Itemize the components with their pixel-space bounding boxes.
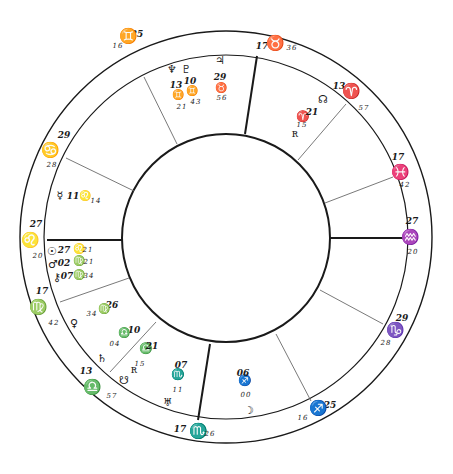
aquarius-icon: ♒ — [401, 228, 420, 246]
planet-pluto: ♇10♊43 — [181, 63, 201, 106]
jupiter-icon: ♃ — [215, 54, 225, 67]
cusp-minutes: 42 — [399, 181, 411, 189]
saturn-icon: ♄ — [97, 352, 107, 365]
planet-chiron-aries: ʀ — [292, 127, 299, 140]
house-cusp-lines — [47, 56, 405, 420]
cusp-minutes: 36 — [287, 44, 298, 52]
cusp-label-h5: 25♐16 — [298, 399, 337, 422]
venus-icon: ♀ — [70, 317, 78, 330]
cusp-minutes: 20 — [32, 252, 44, 260]
cusp-line-h5 — [276, 334, 311, 401]
planet-minutes: 21 — [176, 103, 188, 111]
planet-minutes: 21 — [82, 246, 94, 254]
cusp-label-mc: 17♉36 — [256, 34, 298, 52]
planet-sign-icon: ♊ — [172, 88, 184, 101]
mercury-icon: ☿ — [57, 189, 64, 202]
planet-degree: 07 — [175, 360, 188, 370]
cusp-degree: 13 — [80, 366, 93, 376]
planet-minutes: 43 — [190, 98, 202, 106]
planet-uranus: ♅ — [163, 396, 173, 409]
planet-degree: 21 — [305, 107, 319, 117]
planet-degree: 07 — [61, 271, 74, 281]
cusp-degree: 27 — [29, 219, 43, 229]
sagittarius-icon: ♐ — [309, 399, 328, 417]
north-node-icon: ☊ — [318, 93, 328, 106]
planet-venus: ♀26♍34 — [70, 300, 119, 330]
planet-ceres-libra: ʀ — [131, 363, 138, 376]
natal-chart: 17♉3625♊1629♋2827♌2017♍4213♎5717♏2625♐16… — [0, 0, 453, 474]
pluto-icon: ♇ — [181, 63, 191, 76]
libra-icon: ♎ — [83, 378, 102, 396]
cusp-line-h6 — [320, 290, 383, 324]
cusp-minutes: 28 — [46, 161, 58, 169]
cusp-label-h9: 13♈57 — [333, 81, 370, 112]
planet-minutes: 34 — [87, 310, 98, 318]
cusp-line-h8 — [325, 177, 393, 203]
cusp-minutes: 28 — [380, 339, 392, 347]
cusp-line-h12 — [66, 158, 134, 191]
cusp-label-h2: 17♍42 — [29, 286, 60, 327]
planet-minutes: 11 — [173, 386, 184, 394]
planet-degree: 06 — [237, 368, 250, 378]
cusp-line-h2 — [60, 278, 129, 302]
planet-minutes: 14 — [91, 197, 102, 205]
cusp-minutes: 16 — [298, 414, 309, 422]
aries-icon: ♈ — [342, 82, 361, 100]
sun-icon: ☉ — [47, 245, 57, 258]
planet-mars-asteroid-aries: ♈2115 — [296, 107, 318, 129]
cusp-minutes: 57 — [107, 392, 118, 400]
moon-icon: ☽ — [244, 404, 254, 417]
cancer-icon: ♋ — [41, 141, 60, 159]
planet-south-node: ☋ — [119, 374, 129, 387]
cusp-degree: 17 — [36, 286, 49, 296]
planet-jupiter: ♃29♉56 — [213, 54, 228, 102]
uranus-icon: ♅ — [163, 396, 173, 409]
planet-degree: 29 — [213, 72, 227, 82]
cusp-label-h6: 29♑28 — [380, 313, 409, 347]
leo-icon: ♌ — [21, 231, 40, 249]
cusp-minutes: 26 — [204, 430, 216, 438]
mars-icon: ♂ — [48, 258, 58, 271]
planet-minutes: 04 — [110, 340, 121, 348]
cusp-minutes: 16 — [113, 42, 124, 50]
cusp-degree: 29 — [57, 130, 71, 140]
planet-positions: ♆13♊21♇10♊43♃29♉56☊♈2115ʀ☿11♌14☉27♌21♂02… — [47, 54, 328, 417]
planet-minutes: 21 — [83, 258, 95, 266]
capricorn-icon: ♑ — [386, 321, 405, 339]
taurus-icon: ♉ — [266, 34, 285, 52]
planet-moon: ☽ — [244, 404, 254, 417]
cusp-minutes: 20 — [407, 248, 419, 256]
planet-asteroid-libra: ♎2115 — [135, 341, 159, 368]
planet-degree: 11 — [67, 191, 80, 201]
center-circle — [122, 134, 330, 342]
planet-minutes: 56 — [217, 94, 228, 102]
pisces-icon: ♓ — [391, 163, 410, 181]
planet-degree: 21 — [145, 341, 159, 351]
neptune-icon: ♆ — [167, 63, 177, 76]
planet-mercury: ☿11♌14 — [57, 189, 102, 205]
virgo-icon: ♍ — [29, 298, 48, 316]
planet-minutes: 34 — [84, 272, 95, 280]
cusp-minutes: 42 — [48, 319, 60, 327]
planet-sign-icon: ♊ — [186, 84, 198, 97]
cusp-degree: 17 — [174, 424, 187, 434]
planet-sign-icon: ♉ — [215, 81, 227, 94]
ceres-libra-icon: ʀ — [131, 363, 138, 376]
planet-degree: 27 — [57, 245, 71, 255]
planet-sign-icon: ♎ — [118, 326, 130, 339]
cusp-label-h8: 17♓42 — [391, 152, 411, 189]
planet-north-node: ☊ — [318, 93, 328, 106]
cusp-label-dsc: 27♒20 — [401, 216, 420, 256]
cusp-degree: 27 — [405, 216, 419, 226]
cusp-line-mc — [245, 56, 257, 134]
planet-moon-sag: ♐0600 — [237, 368, 252, 399]
planet-chiron: ⚷07♍34 — [53, 268, 94, 284]
south-node-icon: ☋ — [119, 374, 129, 387]
cusp-label-asc: 27♌20 — [21, 219, 44, 260]
planet-sign-icon: ♌ — [79, 189, 91, 202]
planet-sun: ☉27♌21 — [47, 242, 93, 258]
cusp-minutes: 57 — [359, 104, 370, 112]
cusp-label-h11: 25♊16 — [113, 27, 144, 50]
cusp-line-ic — [198, 344, 210, 420]
planet-minutes: 00 — [241, 391, 252, 399]
